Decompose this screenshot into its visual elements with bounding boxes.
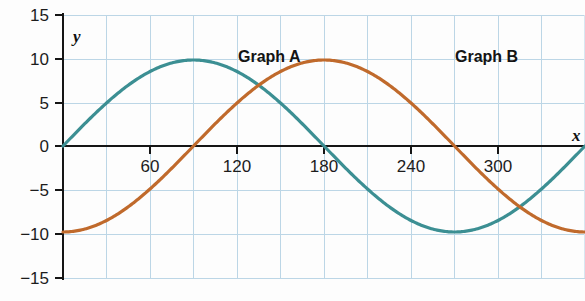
trigonometric-graph: 15 10 5 0 −5 −10 −15 60 120 180 240 300 … <box>0 0 585 301</box>
y-tick-label-15: 15 <box>30 6 49 25</box>
y-tick-label-neg5: −5 <box>30 181 49 200</box>
y-tick-label-10: 10 <box>30 50 49 69</box>
x-axis-label: x <box>571 126 581 145</box>
series-label-graph-b: Graph B <box>455 48 518 65</box>
y-axis-label: y <box>71 27 81 46</box>
y-tick-label-neg10: −10 <box>20 225 49 244</box>
y-tick-label-0: 0 <box>40 137 49 156</box>
x-tick-labels: 60 120 180 240 300 <box>141 157 513 176</box>
series-label-graph-a: Graph A <box>238 48 301 65</box>
x-tick-label-180: 180 <box>310 157 338 176</box>
chart-screenshot: 15 10 5 0 −5 −10 −15 60 120 180 240 300 … <box>0 0 585 301</box>
x-tick-label-120: 120 <box>223 157 251 176</box>
y-tick-label-neg15: −15 <box>20 269 49 288</box>
x-tick-label-300: 300 <box>484 157 512 176</box>
y-tick-label-5: 5 <box>40 94 49 113</box>
x-tick-label-60: 60 <box>141 157 160 176</box>
y-tick-labels: 15 10 5 0 −5 −10 −15 <box>20 6 49 288</box>
x-tick-label-240: 240 <box>397 157 425 176</box>
